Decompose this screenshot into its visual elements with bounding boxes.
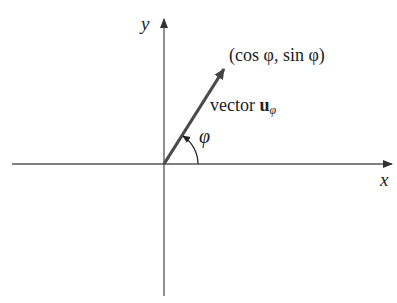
x-axis-label: x (380, 170, 388, 189)
unit-vector-arrow (164, 69, 224, 164)
point-coordinate-label: (cos φ, sin φ) (229, 46, 325, 64)
y-axis-label: y (141, 14, 149, 33)
unit-vector-diagram (0, 0, 397, 303)
vector-label-prefix: vector (210, 95, 259, 115)
vector-subscript: φ (270, 103, 277, 117)
vector-label: vector uφ (210, 96, 276, 116)
angle-label: φ (199, 126, 210, 146)
vector-symbol: u (259, 95, 269, 115)
angle-arc (183, 136, 198, 164)
